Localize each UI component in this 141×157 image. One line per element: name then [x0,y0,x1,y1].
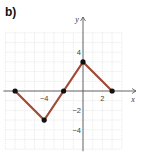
data-point-marker [61,88,66,93]
y-tick-label: −2 [72,106,81,115]
data-point-marker [13,88,18,93]
x-tick-label: 2 [100,94,104,103]
y-axis-label: y [74,15,79,24]
x-tick-label: −4 [40,94,49,103]
data-point-marker [80,59,85,64]
axes [3,17,136,151]
graph: xy−424−2−4 [0,0,141,157]
x-axis-label: x [130,95,135,104]
y-tick-label: −4 [72,126,81,135]
data-point-marker [110,88,115,93]
data-point-marker [42,118,47,123]
y-tick-label: 4 [77,48,81,57]
